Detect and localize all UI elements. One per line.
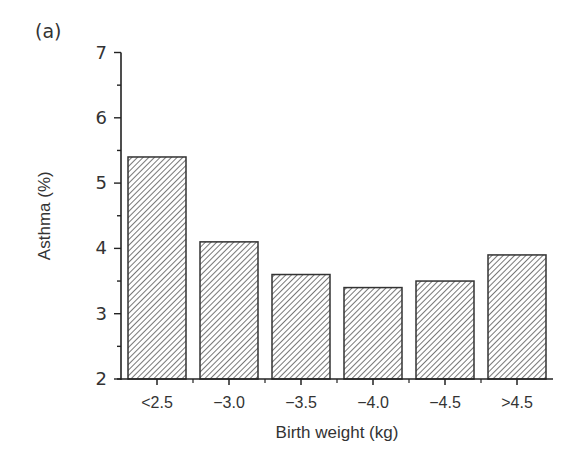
x-tick-label: −3.0 (213, 394, 245, 411)
bar-1 (200, 242, 258, 379)
x-tick-label: −3.5 (285, 394, 317, 411)
bar-2 (272, 275, 330, 379)
bar-0 (128, 157, 186, 379)
x-tick-label: >4.5 (501, 394, 533, 411)
axes-group: <2.5−3.0−3.5−4.0−4.5>4.5234567Birth weig… (35, 42, 553, 443)
y-tick-label: 7 (96, 42, 107, 63)
bar-4 (416, 281, 474, 379)
y-tick-label: 4 (96, 237, 107, 258)
y-tick-label: 6 (96, 107, 107, 128)
x-axis-title: Birth weight (kg) (276, 423, 399, 442)
y-tick-label: 3 (96, 303, 107, 324)
y-axis-title: Asthma (%) (35, 171, 54, 260)
x-tick-label: −4.5 (429, 394, 461, 411)
bar-chart: <2.5−3.0−3.5−4.0−4.5>4.5234567Birth weig… (0, 0, 580, 467)
y-tick-label: 5 (96, 172, 107, 193)
bar-5 (488, 255, 546, 379)
x-tick-label: <2.5 (141, 394, 173, 411)
bars-group (128, 157, 546, 379)
y-tick-label: 2 (96, 368, 107, 389)
x-tick-label: −4.0 (357, 394, 389, 411)
bar-3 (344, 288, 402, 379)
